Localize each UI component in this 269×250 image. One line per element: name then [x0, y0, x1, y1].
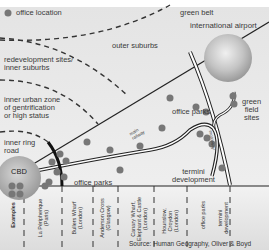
example-item: termini development [217, 193, 229, 243]
example-item: La Péripherique (Paris) [37, 193, 49, 243]
urban-office-location-diagram: office location green belt international… [0, 0, 269, 250]
office-parks-lower-label: office parks [74, 179, 112, 187]
green-belt-label: green belt [180, 9, 213, 17]
office-parks-upper-label: office parks [172, 108, 210, 116]
example-item: Canary Wharf, Elephant & Castle (London) [130, 191, 148, 247]
source-credit: Source: Human Geography, Oliver & Boyd [129, 240, 251, 247]
inner-urban-label: inner urban zone of gentrification or hi… [4, 96, 60, 120]
outer-suburbs-label: outer suburbs [112, 42, 158, 50]
cbd-label: CBD [11, 168, 27, 176]
airport-label: international airport [190, 22, 257, 30]
legend-office-location: office location [16, 9, 62, 17]
example-item: Anderson Cross (Glasgow) [99, 193, 111, 243]
airport-sphere [204, 34, 252, 82]
inner-ring-label: inner ring road [4, 139, 35, 155]
examples-header: Examples [10, 190, 16, 240]
example-item: Bullers Wharf (London) [71, 193, 83, 243]
example-item: Hounslow, Croydon (London) [161, 196, 179, 246]
green-field-label: green field sites [242, 98, 261, 122]
redevelopment-label: redevelopment sites/ inner suburbs [4, 56, 73, 72]
example-item: office parks [200, 190, 206, 240]
termini-label: termini development [172, 168, 215, 184]
